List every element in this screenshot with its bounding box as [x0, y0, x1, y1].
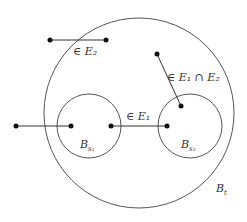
middle-segment-label: ∈ E₁: [126, 110, 150, 123]
diagonal-segment-end-dot: [179, 104, 184, 109]
top-segment-label: ∈ E₂: [73, 45, 97, 58]
top-segment-end-dot: [104, 38, 109, 43]
top-segment-start-dot: [48, 38, 53, 43]
outer-ball-label: Bt: [215, 182, 227, 197]
diagonal-segment-label: ∈ E₁ ∩ E₂: [167, 71, 220, 84]
middle-segment-start-dot: [109, 124, 114, 129]
left-segment-start-dot: [14, 124, 19, 129]
inner-ball-2-label: Bs₂: [180, 138, 196, 153]
left-segment-end-dot: [69, 124, 74, 129]
middle-segment-end-dot: [165, 124, 170, 129]
inner-ball-1-label: Bs₁: [79, 138, 95, 153]
ball-diagram: ∈ E₂ ∈ E₁ ∈ E₁ ∩ E₂ Bs₁ Bs₂ Bt: [0, 0, 247, 222]
diagonal-segment-start-dot: [155, 52, 160, 57]
